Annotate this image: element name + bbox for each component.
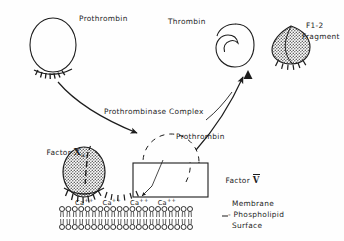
factor-v-numeral: V	[253, 174, 260, 185]
factor-xa-prefix: Factor	[47, 148, 74, 157]
calcium-ion: Ca++	[75, 198, 94, 208]
calcium-ion: Ca++	[158, 198, 177, 208]
arrowhead-to-fragment	[244, 70, 253, 79]
label-prothrombin-top: Prothrombin	[79, 15, 128, 24]
label-fragment-line2: Fragment	[302, 33, 340, 42]
thrombin-oval-shape	[216, 24, 254, 67]
membrane-leaflet-inner	[60, 219, 193, 230]
label-prothrombin-complex: Prothrombin	[176, 133, 225, 142]
prothrombin-oval-shape	[30, 18, 76, 79]
calcium-ion: Ca++	[130, 198, 149, 208]
calcium-ion-row: Ca++Ca++Ca++Ca++	[75, 198, 176, 208]
label-fragment-line1: F1-2	[306, 22, 324, 31]
label-factor-xa: Factor Xa	[36, 138, 85, 167]
factor-v-prefix: Factor	[226, 176, 253, 185]
label-prothrombinase-complex: Prothrombinase Complex	[104, 108, 204, 117]
factor-xa-numeral: X	[74, 147, 81, 157]
factor-xa-subscript: a	[81, 151, 85, 158]
label-membrane-line3: Surface	[232, 222, 262, 231]
membrane-leaflet-outer	[60, 207, 193, 218]
calcium-ion: Ca++	[103, 198, 122, 208]
label-membrane-line2: - Phospholipid	[228, 211, 284, 220]
membrane-bilayer	[60, 207, 193, 230]
factor-v-box	[133, 163, 208, 197]
label-thrombin: Thrombin	[168, 18, 206, 27]
prothrombinase-diagram: Prothrombin Thrombin F1-2 Fragment Proth…	[0, 0, 344, 241]
label-factor-v: Factor V	[215, 167, 260, 194]
label-membrane-line1: Membrane	[232, 200, 274, 209]
